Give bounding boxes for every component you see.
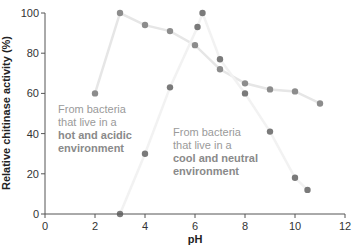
data-point xyxy=(167,84,173,90)
data-point xyxy=(217,56,223,62)
y-tick-label: 40 xyxy=(27,128,39,140)
y-tick-label: 20 xyxy=(27,168,39,180)
x-tick-label: 4 xyxy=(142,220,148,232)
x-tick-label: 8 xyxy=(242,220,248,232)
data-point xyxy=(194,24,200,30)
data-point xyxy=(217,66,223,72)
x-tick-label: 2 xyxy=(92,220,98,232)
annotation-line: From bacteria xyxy=(173,126,258,139)
y-axis-title: Relative chitinase activity (%) xyxy=(0,36,12,190)
data-point xyxy=(192,42,198,48)
data-point xyxy=(304,187,310,193)
data-point xyxy=(167,28,173,34)
x-axis-title: pH xyxy=(188,233,203,245)
data-point xyxy=(242,90,248,96)
y-tick-label: 80 xyxy=(27,47,39,59)
annotation-emphasis: environment xyxy=(58,142,124,154)
y-tick-label: 0 xyxy=(33,208,39,220)
data-point xyxy=(292,88,298,94)
y-tick-label: 60 xyxy=(27,87,39,99)
annotation-line: From bacteria xyxy=(58,103,132,116)
data-point xyxy=(242,80,248,86)
annotation-hot-acidic: From bacteria that live in a hot and aci… xyxy=(58,103,132,155)
annotation-emphasis: cool and neutral xyxy=(173,152,258,164)
x-tick-label: 6 xyxy=(192,220,198,232)
data-point xyxy=(292,175,298,181)
data-point xyxy=(267,86,273,92)
data-point xyxy=(92,90,98,96)
x-ticks: 024681012 xyxy=(42,214,351,232)
data-point xyxy=(117,10,123,16)
y-tick-label: 100 xyxy=(21,7,39,19)
chitinase-activity-chart: 024681012 020406080100 pH Relative chiti… xyxy=(0,0,352,246)
annotation-line: that live in a xyxy=(173,139,258,152)
annotation-emphasis: environment xyxy=(173,165,239,177)
y-ticks: 020406080100 xyxy=(21,7,45,220)
series-line-1 xyxy=(120,13,308,214)
data-point xyxy=(142,22,148,28)
x-tick-label: 10 xyxy=(289,220,301,232)
data-point xyxy=(142,151,148,157)
annotation-emphasis: hot and acidic xyxy=(58,129,132,141)
data-point xyxy=(267,128,273,134)
data-point xyxy=(317,100,323,106)
annotation-line: that live in a xyxy=(58,116,132,129)
x-tick-label: 12 xyxy=(339,220,351,232)
data-point xyxy=(199,10,205,16)
x-tick-label: 0 xyxy=(42,220,48,232)
annotation-cool-neutral: From bacteria that live in a cool and ne… xyxy=(173,126,258,178)
